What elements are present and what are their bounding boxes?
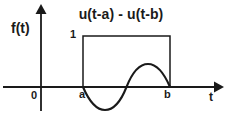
rectangular-pulse-path — [83, 36, 170, 87]
figure-container: f(t) u(t-a) - u(t-b) 1 0 a b t — [0, 0, 234, 121]
y-tick-label-one: 1 — [70, 29, 76, 40]
x-tick-label-b: b — [164, 89, 171, 100]
y-axis-label: f(t) — [11, 21, 30, 35]
x-axis-label: t — [209, 91, 213, 103]
x-axis-arrowhead-icon — [214, 82, 224, 93]
x-tick-label-a: a — [79, 89, 85, 100]
origin-label: 0 — [31, 90, 37, 101]
formula-label: u(t-a) - u(t-b) — [0, 7, 234, 21]
